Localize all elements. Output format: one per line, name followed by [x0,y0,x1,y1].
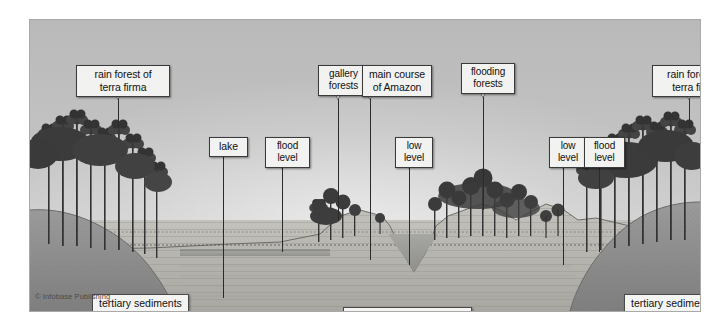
copyright-notice: © Infobase Publishing [35,292,110,301]
leader-line-rain-forest-terra-firma-right [689,98,690,128]
callout-flood-level-right: flood level [584,137,625,168]
ground-label-tertiary-sediments-right: tertiary sediments [624,294,700,311]
leader-line-flood-level-right [599,167,600,252]
leader-line-flooding-forests [483,96,484,210]
callout-flood-level-left: flood level [265,137,310,168]
callout-main-course-of-amazon: main course of Amazon [362,65,432,97]
leader-line-gallery-forests [338,98,339,220]
illustration-panel: rain forest of terra firmalakeflood leve… [30,20,700,311]
leader-line-low-level-center [409,167,410,265]
leader-line-lake [223,152,224,298]
callout-low-level-right: low level [549,137,587,168]
ground-label-recent-alluvial-sediments: recent alluvial sediments [343,307,472,311]
callout-low-level-center: low level [395,137,433,168]
callout-lake: lake [209,137,248,157]
callout-flooding-forests: flooding forests [461,63,515,94]
callout-rain-forest-terra-firma-left: rain forest of terra firma [76,65,170,97]
leader-line-main-course-of-amazon [370,98,371,260]
leader-line-flood-level-left [282,167,283,252]
leader-line-rain-forest-terra-firma-left [118,98,119,128]
figure-root: rain forest of terra firmalakeflood leve… [0,0,725,329]
callout-rain-forest-terra-firma-right: rain forest of terra firma [652,65,700,97]
leader-line-low-level-right [563,167,564,265]
